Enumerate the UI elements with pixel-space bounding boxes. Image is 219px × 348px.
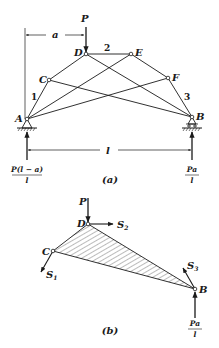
figure-a-labels: P a D 2 E C F 1 3 A B l P(l − a) l Pa l … (10, 13, 204, 185)
member-AE (27, 54, 131, 119)
joint-c-b (51, 249, 55, 253)
joint-f (166, 76, 170, 80)
joint-e (129, 52, 133, 56)
caption-a: (a) (102, 174, 118, 185)
joint-b-label: B (195, 111, 204, 122)
load-p-label-b: P (78, 196, 87, 207)
reaction-b-denominator-b: l (194, 330, 197, 339)
joint-f-label: F (171, 72, 180, 83)
load-p-label: P (80, 13, 89, 24)
dim-l-label: l (106, 145, 110, 156)
member-1-label: 1 (31, 92, 37, 102)
dim-a-label: a (52, 29, 58, 40)
caption-b: (b) (102, 325, 119, 336)
force-s3-label: S3 (187, 260, 198, 272)
member-AF (27, 78, 168, 119)
joint-d-b (86, 222, 90, 226)
force-s2-label: S2 (117, 219, 128, 231)
reaction-b-numerator: Pa (186, 165, 197, 174)
joint-c-label: C (39, 74, 47, 85)
reaction-b-numerator-b: Pa (189, 319, 200, 328)
figure-b (41, 198, 197, 318)
member-DB (86, 54, 192, 117)
reaction-b-denominator: l (191, 176, 194, 185)
joint-d-label-b: D (76, 218, 86, 229)
joint-a-label: A (14, 113, 23, 124)
force-s1-label: S1 (46, 269, 57, 281)
joint-b-b (193, 287, 197, 291)
joint-a (25, 117, 29, 121)
joint-c-label-b: C (42, 246, 50, 257)
member-3-label: 3 (184, 92, 190, 102)
reaction-a-numerator: P(l − a) (10, 165, 43, 174)
truss-figure: P a D 2 E C F 1 3 A B l P(l − a) l Pa l … (0, 0, 219, 348)
member-CB (49, 80, 192, 117)
joint-b-label-b: B (198, 284, 207, 295)
member-2-label: 2 (104, 43, 110, 53)
joint-c (47, 78, 51, 82)
joint-d-label: D (73, 47, 83, 58)
joint-b (190, 115, 194, 119)
joint-e-label: E (134, 47, 143, 58)
free-body-triangle (53, 224, 195, 289)
reaction-a-denominator: l (26, 176, 29, 185)
joint-d (84, 52, 88, 56)
